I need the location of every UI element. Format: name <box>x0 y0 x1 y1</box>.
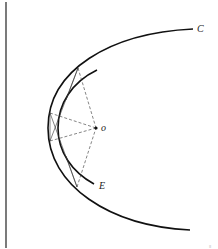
corner-mark: ≡ <box>209 244 212 249</box>
label-o: o <box>101 122 106 133</box>
label-c: C <box>197 23 204 34</box>
outer-curve-c <box>48 29 193 230</box>
label-e: E <box>98 180 105 191</box>
center-point-o <box>94 126 97 129</box>
dashed-rays <box>50 68 96 187</box>
diagram-canvas: C o E ≡ <box>0 0 218 249</box>
inner-curve-e <box>58 70 97 184</box>
